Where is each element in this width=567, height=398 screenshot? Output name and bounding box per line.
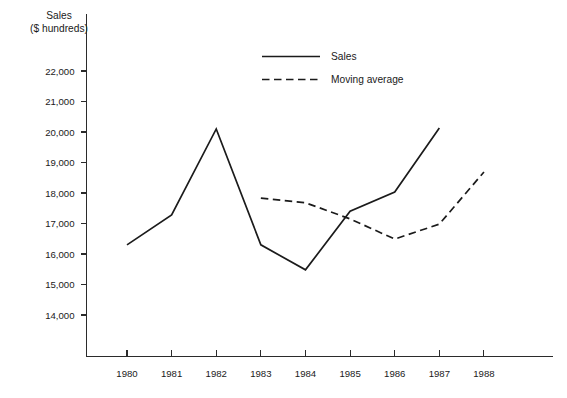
y-axis-title-line1: Sales — [46, 10, 71, 21]
x-tick-label: 1986 — [384, 368, 405, 379]
x-axis-ticks — [127, 350, 484, 357]
sales-line-chart: Sales ($ hundreds) 14,00015,00016,00017,… — [0, 0, 567, 398]
y-tick-label: 22,000 — [45, 66, 74, 77]
chart-canvas: Sales ($ hundreds) 14,00015,00016,00017,… — [0, 0, 567, 398]
y-tick-label: 19,000 — [45, 157, 74, 168]
series-sales — [127, 128, 439, 270]
y-axis-ticks — [81, 71, 87, 315]
x-tick-label: 1987 — [429, 368, 450, 379]
y-tick-label: 14,000 — [45, 310, 74, 321]
y-tick-label: 21,000 — [45, 96, 74, 107]
x-tick-label: 1988 — [473, 368, 494, 379]
x-tick-label: 1984 — [295, 368, 317, 379]
y-tick-label: 20,000 — [45, 127, 74, 138]
y-tick-label: 18,000 — [45, 188, 74, 199]
x-tick-label: 1985 — [339, 368, 360, 379]
y-tick-label: 15,000 — [45, 279, 74, 290]
x-tick-label: 1982 — [206, 368, 227, 379]
y-tick-label: 17,000 — [45, 218, 74, 229]
x-tick-label: 1980 — [116, 368, 137, 379]
x-tick-label: 1983 — [250, 368, 271, 379]
legend-label-sales: Sales — [331, 51, 356, 62]
x-axis-tick-labels: 198019811982198319841985198619871988 — [116, 368, 494, 379]
y-axis-tick-labels: 14,00015,00016,00017,00018,00019,00020,0… — [45, 66, 74, 321]
series-moving-average — [261, 172, 484, 239]
y-tick-label: 16,000 — [45, 249, 74, 260]
y-axis-title-line2: ($ hundreds) — [30, 23, 88, 34]
data-series-layer — [127, 128, 484, 270]
chart-legend: Sales Moving average — [262, 51, 404, 85]
axis-lines — [87, 14, 554, 357]
x-tick-label: 1981 — [161, 368, 182, 379]
legend-label-moving-average: Moving average — [331, 74, 404, 85]
